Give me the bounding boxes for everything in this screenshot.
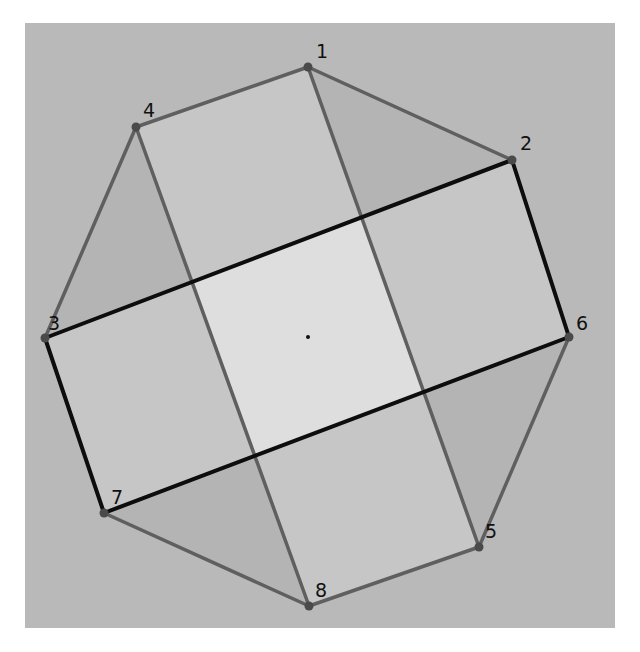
vertex-point-2: [508, 156, 517, 165]
center-point: [306, 335, 310, 339]
vertex-label-3: 3: [48, 312, 60, 334]
vertex-point-4: [132, 123, 141, 132]
vertex-point-1: [304, 63, 313, 72]
vertex-label-6: 6: [576, 312, 588, 334]
vertex-label-4: 4: [143, 99, 155, 121]
vertex-point-7: [100, 509, 109, 518]
vertex-label-7: 7: [111, 486, 123, 508]
vertex-point-3: [41, 334, 50, 343]
vertex-label-1: 1: [316, 40, 328, 62]
vertex-label-8: 8: [315, 579, 327, 601]
vertex-label-5: 5: [485, 520, 497, 542]
vertex-point-6: [565, 333, 574, 342]
vertex-point-8: [305, 602, 314, 611]
vertex-point-5: [475, 543, 484, 552]
vertex-label-2: 2: [520, 132, 532, 154]
geometry-diagram: 12345678: [0, 0, 640, 652]
